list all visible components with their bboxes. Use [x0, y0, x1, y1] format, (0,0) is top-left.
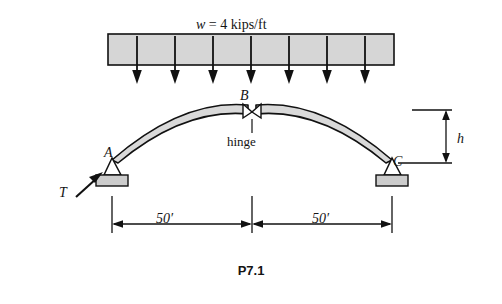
- label-span-right: 50′: [312, 212, 329, 226]
- figure-caption: P7.1: [0, 264, 502, 277]
- label-support-A: A: [104, 146, 113, 160]
- load-magnitude-label: w = 4 kips/ft: [196, 18, 267, 32]
- rise-dimension-h: [398, 110, 452, 163]
- arch-diagram-svg: [0, 0, 502, 304]
- label-support-C: C: [393, 155, 402, 169]
- figure-problem-p7-1: w = 4 kips/ft A B C T h hinge 50′ 50′ P7…: [0, 0, 502, 304]
- label-hinge-note: hinge: [227, 135, 256, 148]
- label-rise-h: h: [457, 132, 464, 146]
- span-dimension-line: [112, 196, 392, 233]
- load-value: = 4 kips/ft: [205, 17, 266, 32]
- label-hinge-B: B: [240, 89, 249, 103]
- support-A: [96, 158, 128, 186]
- arch-right-segment: [256, 104, 392, 163]
- load-symbol: w: [196, 17, 205, 32]
- label-span-left: 50′: [156, 212, 173, 226]
- hinge-symbol: [243, 104, 261, 118]
- support-C: [376, 158, 408, 186]
- label-tension-T: T: [59, 186, 67, 200]
